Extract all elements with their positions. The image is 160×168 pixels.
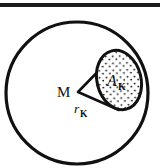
technical-diagram-svg: M r K A K [0,0,160,168]
label-radius-rk: r K [74,101,88,119]
label-M: M [57,84,70,100]
label-radius-rk-subscript: K [80,109,88,119]
figure-container: M r K A K [0,0,160,168]
label-M-text: M [57,84,70,100]
label-area-ak-base: A [106,72,117,89]
label-area-ak-subscript: K [118,81,126,92]
